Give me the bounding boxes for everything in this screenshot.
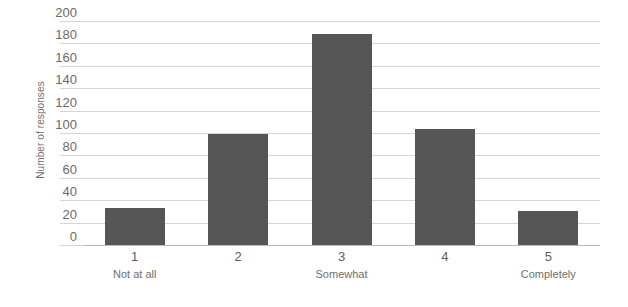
y-tick-label: 100 <box>55 117 77 133</box>
gridline-tick-stub <box>60 133 83 134</box>
x-tick-sublabel: Not at all <box>113 266 156 282</box>
x-tick: 2 <box>234 248 241 265</box>
bar <box>518 211 578 245</box>
axis-baseline <box>83 245 600 246</box>
y-tick-label: 120 <box>55 95 77 111</box>
bar <box>415 129 475 245</box>
y-axis-title: Number of responses <box>34 15 48 245</box>
x-tick: 3Somewhat <box>316 248 368 282</box>
bars-layer <box>83 21 600 245</box>
bar <box>208 134 268 245</box>
y-tick-label: 140 <box>55 72 77 88</box>
y-tick-label: 180 <box>55 27 77 43</box>
y-tick-label: 200 <box>55 5 77 21</box>
gridline-tick-stub <box>60 200 83 201</box>
y-tick-label: 40 <box>63 184 77 200</box>
x-tick-label: 3 <box>316 248 368 265</box>
gridline-tick-stub <box>60 21 83 22</box>
gridline-tick-stub <box>60 111 83 112</box>
gridline-tick-stub <box>60 155 83 156</box>
x-tick-label: 4 <box>441 248 448 265</box>
gridline-tick-stub <box>60 43 83 44</box>
gridline-tick-stub <box>60 88 83 89</box>
bar <box>312 34 372 245</box>
y-tick-label: 160 <box>55 50 77 66</box>
y-tick-label: 60 <box>63 162 77 178</box>
x-tick-label: 2 <box>234 248 241 265</box>
gridline-tick-stub <box>60 245 83 246</box>
bar <box>105 208 165 245</box>
x-axis-labels: 1Not at all23Somewhat45Completely <box>83 248 600 298</box>
bar-chart: Number of responses 02040608010012014016… <box>0 0 628 307</box>
x-tick-label: 5 <box>521 248 576 265</box>
y-tick-label: 80 <box>63 139 77 155</box>
x-tick: 4 <box>441 248 448 265</box>
x-tick: 5Completely <box>521 248 576 282</box>
x-tick-sublabel: Somewhat <box>316 266 368 282</box>
y-tick-label: 20 <box>63 207 77 223</box>
x-tick-sublabel: Completely <box>521 266 576 282</box>
gridline-tick-stub <box>60 223 83 224</box>
gridline-tick-stub <box>60 178 83 179</box>
plot-area: 020406080100120140160180200 <box>83 21 600 245</box>
gridline-tick-stub <box>60 66 83 67</box>
x-tick: 1Not at all <box>113 248 156 282</box>
y-tick-label: 0 <box>70 229 77 245</box>
x-tick-label: 1 <box>113 248 156 265</box>
